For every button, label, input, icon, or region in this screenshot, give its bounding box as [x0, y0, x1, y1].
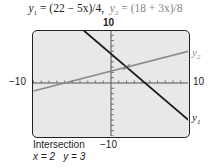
intersection-heading: Intersection — [33, 139, 85, 150]
intersection-y: y = 3 — [63, 151, 85, 162]
intersection-values: x = 2 y = 3 — [33, 151, 85, 162]
line-y1 — [83, 30, 188, 120]
plot-area — [0, 0, 211, 168]
intersection-x: x = 2 — [33, 151, 55, 162]
